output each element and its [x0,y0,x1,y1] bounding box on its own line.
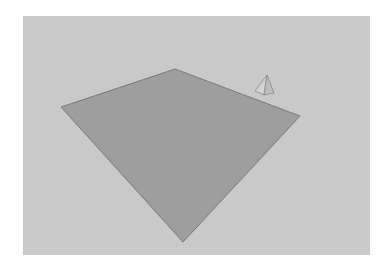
scene-canvas[interactable] [0,0,391,270]
pyramid[interactable] [255,75,274,95]
